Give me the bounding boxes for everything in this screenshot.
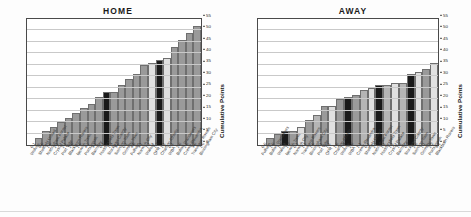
away-y-tick: 10 bbox=[440, 116, 448, 120]
home-gridline bbox=[27, 121, 201, 122]
footer-divider bbox=[0, 211, 471, 212]
home-y-tick: 15 bbox=[203, 105, 211, 109]
away-gridline bbox=[258, 41, 438, 42]
away-x-axis-labels: 0-0Fulham1-0Bolton Wanderers1-0Walsall1-… bbox=[257, 147, 439, 217]
home-y-tick: 45 bbox=[203, 36, 211, 40]
away-y-tick: 15 bbox=[440, 105, 448, 109]
away-gridline bbox=[258, 75, 438, 76]
home-gridline bbox=[27, 18, 201, 19]
home-y-tick: 25 bbox=[203, 82, 211, 86]
away-gridline bbox=[258, 87, 438, 88]
home-gridline bbox=[27, 64, 201, 65]
bar bbox=[328, 106, 336, 145]
away-y-tick: 25 bbox=[440, 82, 448, 86]
home-y-axis-label: Cumulative Points bbox=[218, 84, 225, 138]
away-gridline bbox=[258, 18, 438, 19]
away-gridline bbox=[258, 52, 438, 53]
home-gridline bbox=[27, 98, 201, 99]
away-y-tick: 30 bbox=[440, 71, 448, 75]
home-x-axis-labels: 0-1Wolves8-0Sheffield United1-0Nottingha… bbox=[26, 147, 202, 217]
away-y-tick: 20 bbox=[440, 94, 448, 98]
home-gridline bbox=[27, 29, 201, 30]
away-y-tick: 35 bbox=[440, 59, 448, 63]
home-y-tick: 55 bbox=[203, 13, 211, 17]
home-y-tick: 35 bbox=[203, 59, 211, 63]
bar bbox=[352, 95, 360, 145]
home-y-tick: 40 bbox=[203, 48, 211, 52]
away-chart-panel: AWAY 0510152025303540455055 Cumulative P… bbox=[235, 0, 471, 217]
figure-root: HOME 0510152025303540455055 Cumulative P… bbox=[0, 0, 471, 217]
away-gridline bbox=[258, 64, 438, 65]
away-gridline bbox=[258, 121, 438, 122]
home-y-tick: 10 bbox=[203, 116, 211, 120]
home-gridline bbox=[27, 110, 201, 111]
away-gridline bbox=[258, 110, 438, 111]
home-chart-title: HOME bbox=[0, 6, 236, 16]
home-y-tick: 30 bbox=[203, 71, 211, 75]
away-y-axis-label: Cumulative Points bbox=[456, 84, 463, 138]
home-gridline bbox=[27, 52, 201, 53]
home-gridline bbox=[27, 87, 201, 88]
away-y-tick: 45 bbox=[440, 36, 448, 40]
home-gridline bbox=[27, 41, 201, 42]
home-y-tick: 50 bbox=[203, 25, 211, 29]
home-gridline bbox=[27, 75, 201, 76]
away-y-tick: 5 bbox=[440, 128, 445, 132]
away-y-tick: 55 bbox=[440, 13, 448, 17]
away-y-tick: 40 bbox=[440, 48, 448, 52]
home-chart-panel: HOME 0510152025303540455055 Cumulative P… bbox=[0, 0, 236, 217]
away-gridline bbox=[258, 98, 438, 99]
home-y-tick: 20 bbox=[203, 94, 211, 98]
away-gridline bbox=[258, 29, 438, 30]
away-y-tick: 50 bbox=[440, 25, 448, 29]
away-chart-title: AWAY bbox=[235, 6, 471, 16]
